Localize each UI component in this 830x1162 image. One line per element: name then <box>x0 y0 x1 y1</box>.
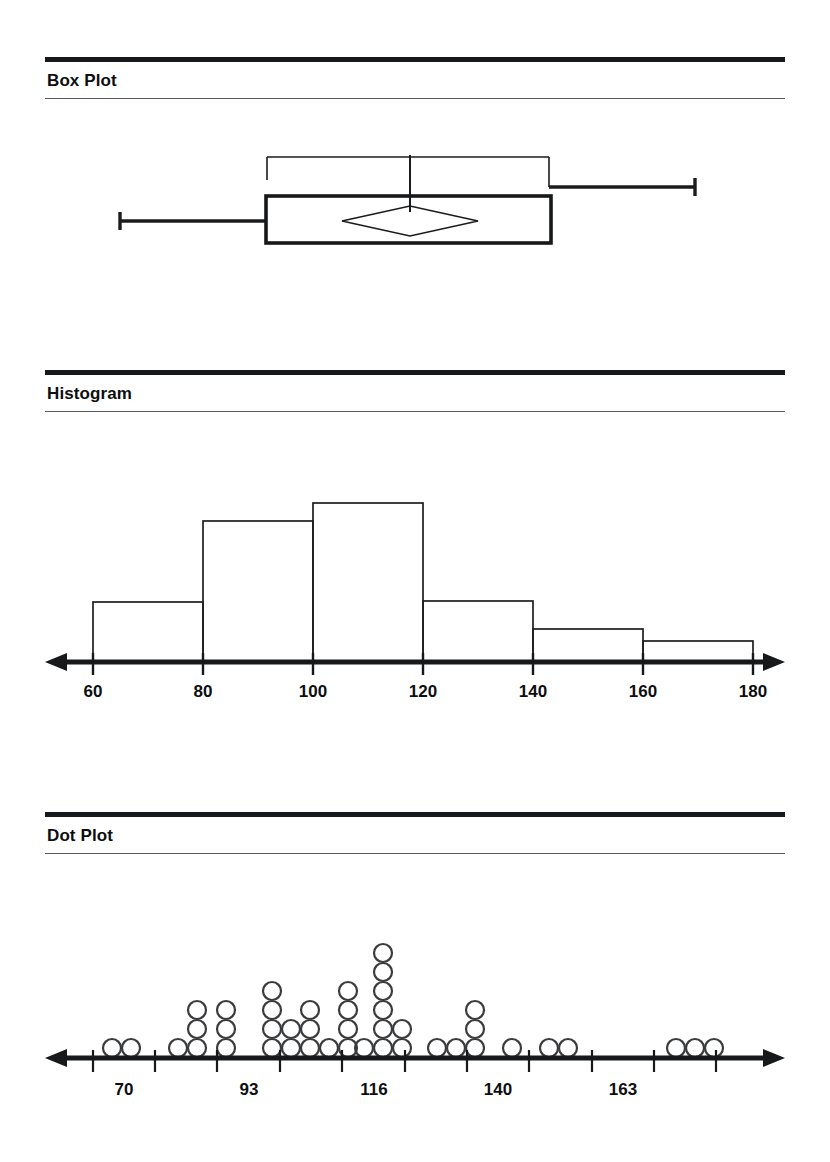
dot-plot-dot <box>282 1039 300 1057</box>
dot-plot-dot <box>374 963 392 981</box>
dot-plot-dot <box>301 1039 319 1057</box>
dot-plot-dot <box>374 1020 392 1038</box>
histogram-xtick-label: 140 <box>519 682 547 702</box>
histogram-xtick-label: 80 <box>194 682 213 702</box>
dot-plot-dot <box>320 1039 338 1057</box>
dot-plot-dot <box>188 1039 206 1057</box>
panel-rule-bottom <box>45 98 785 99</box>
dot-plot-dot <box>466 1039 484 1057</box>
dot-plot-dot <box>188 1020 206 1038</box>
dot-plot-dot <box>447 1039 465 1057</box>
histogram-bar <box>643 641 753 662</box>
axis-arrow-left-icon <box>45 653 67 671</box>
dot-plot-dot <box>122 1039 140 1057</box>
histogram-xtick-label: 120 <box>409 682 437 702</box>
dot-plot-dot <box>301 1001 319 1019</box>
dot-plot-dot <box>393 1020 411 1038</box>
panel-title-dot-plot: Dot Plot <box>45 817 785 853</box>
dot-plot-dot <box>559 1039 577 1057</box>
dot-plot-dot <box>217 1020 235 1038</box>
histogram-bar <box>203 521 313 662</box>
dot-plot-svg <box>45 905 785 1125</box>
panel-title-box-plot: Box Plot <box>45 62 785 98</box>
dot-plot-dot <box>374 982 392 1000</box>
panel-histogram: Histogram <box>45 370 785 412</box>
panel-title-histogram: Histogram <box>45 375 785 411</box>
dot-plot-dot <box>705 1039 723 1057</box>
dot-plot-dot <box>339 1020 357 1038</box>
dot-plot-dot <box>374 1001 392 1019</box>
histogram-bar <box>533 629 643 662</box>
histogram-xtick-label: 180 <box>739 682 767 702</box>
dot-plot-xtick-label: 116 <box>360 1080 387 1100</box>
panel-rule-bottom <box>45 853 785 854</box>
panel-rule-bottom <box>45 411 785 412</box>
dot-plot-dot <box>374 944 392 962</box>
box-plot-svg <box>45 140 785 270</box>
dot-plot-figure: 70 93 116 140 163 <box>45 905 785 1125</box>
axis-arrow-left-icon <box>45 1049 67 1067</box>
histogram-xtick-label: 160 <box>629 682 657 702</box>
dot-plot-dot <box>263 1020 281 1038</box>
dot-plot-dot <box>217 1039 235 1057</box>
dot-plot-dot <box>169 1039 187 1057</box>
axis-arrow-right-icon <box>763 1049 785 1067</box>
dot-plot-xtick-label: 93 <box>240 1080 259 1100</box>
worksheet-page: Box Plot <box>0 0 830 1162</box>
dot-plot-dot <box>540 1039 558 1057</box>
dot-plot-dot <box>503 1039 521 1057</box>
box-plot-upper-bracket <box>267 157 549 187</box>
dot-plot-dot <box>263 1001 281 1019</box>
dot-plot-dot <box>686 1039 704 1057</box>
dot-plot-dot <box>263 1039 281 1057</box>
box-plot-upper-whisker <box>549 178 695 196</box>
histogram-xtick-label: 100 <box>299 682 327 702</box>
dot-plot-dot <box>393 1039 411 1057</box>
dot-plot-dot <box>339 1001 357 1019</box>
dot-plot-dot <box>217 1001 235 1019</box>
dot-plot-xtick-label: 163 <box>609 1080 637 1100</box>
dot-plot-dot-stacks <box>103 944 723 1057</box>
histogram-xtick-label: 60 <box>84 682 103 702</box>
dot-plot-dot <box>103 1039 121 1057</box>
dot-plot-xtick-label: 140 <box>484 1080 512 1100</box>
histogram-figure: 60 80 100 120 140 160 180 <box>45 470 785 680</box>
histogram-bar <box>313 503 423 662</box>
dot-plot-xtick-label: 70 <box>115 1080 134 1100</box>
histogram-bar <box>93 602 203 662</box>
dot-plot-dot <box>374 1039 392 1057</box>
panel-box-plot: Box Plot <box>45 57 785 99</box>
histogram-svg <box>45 470 785 680</box>
dot-plot-dot <box>301 1020 319 1038</box>
dot-plot-dot <box>339 982 357 1000</box>
dot-plot-dot <box>282 1020 300 1038</box>
box-plot-figure <box>45 140 785 270</box>
axis-arrow-right-icon <box>763 653 785 671</box>
dot-plot-dot <box>428 1039 446 1057</box>
panel-dot-plot: Dot Plot <box>45 812 785 854</box>
histogram-x-axis <box>45 653 785 671</box>
histogram-bars <box>93 503 753 662</box>
box-plot-lower-whisker <box>120 212 266 230</box>
dot-plot-dot <box>466 1020 484 1038</box>
dot-plot-dot <box>263 982 281 1000</box>
dot-plot-dot <box>667 1039 685 1057</box>
histogram-bar <box>423 601 533 662</box>
dot-plot-dot <box>188 1001 206 1019</box>
dot-plot-dot <box>466 1001 484 1019</box>
